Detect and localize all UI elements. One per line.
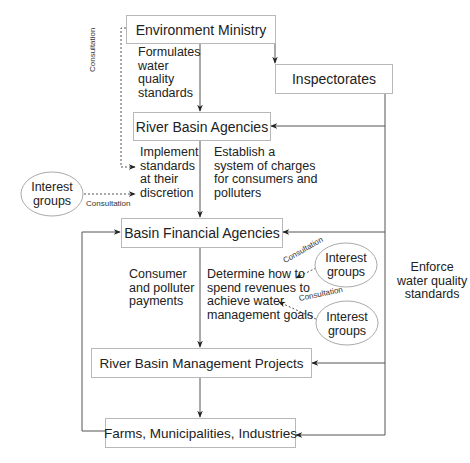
label-implement-standards: Implement standards at their discretion	[140, 146, 198, 200]
consultation-label-left-groups: Consultation	[86, 199, 130, 208]
consultation-label-vertical: Consultation	[88, 28, 97, 72]
node-environment-ministry: Environment Ministry	[126, 15, 276, 44]
node-basin-financial-agencies: Basin Financial Agencies	[121, 218, 283, 248]
label-establish-charges: Establish a system of charges for consum…	[214, 146, 318, 200]
label-formulates-standards: Formulates water quality standards	[138, 46, 201, 100]
interest-groups-right-upper: Interest groups	[316, 251, 376, 279]
node-inspectorates: Inspectorates	[275, 64, 393, 94]
arrow-payments-loop	[82, 232, 120, 431]
node-farms-municipalities-industries: Farms, Municipalities, Industries	[105, 418, 296, 448]
node-river-basin-management-projects: River Basin Management Projects	[91, 348, 312, 378]
label-consumer-payments: Consumer and polluter payments	[129, 268, 194, 309]
interest-groups-right-lower: Interest groups	[317, 310, 377, 338]
dotted-ministry-consultation	[121, 28, 135, 167]
node-river-basin-agencies: River Basin Agencies	[133, 112, 271, 141]
label-enforce-standards: Enforce water quality standards	[397, 261, 467, 302]
interest-groups-left: Interest groups	[22, 180, 82, 208]
